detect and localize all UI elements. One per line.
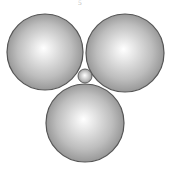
large-sphere-top-left	[7, 14, 83, 90]
large-sphere-bottom	[46, 84, 124, 162]
spheres-diagram	[0, 0, 173, 175]
small-sphere-center	[78, 69, 92, 83]
large-sphere-top-right	[86, 14, 164, 92]
